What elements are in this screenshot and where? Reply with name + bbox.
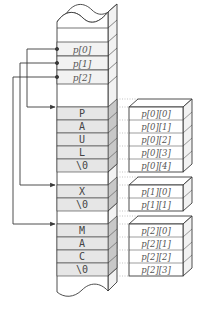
pointer-cell-label: p[1] (73, 59, 92, 69)
char-cell: P (79, 108, 85, 119)
char-cell: A (79, 121, 85, 132)
pointer-arrows (13, 47, 59, 224)
element-label: p[1][0] (141, 187, 171, 197)
string-block-2: M A C \0 (57, 216, 117, 276)
char-cell: U (79, 134, 85, 145)
char-cell: L (79, 147, 85, 158)
char-cell: \0 (76, 199, 88, 210)
arrow-p0-to-string0 (27, 49, 57, 107)
char-cell: \0 (76, 160, 88, 171)
element-label: p[2][2] (141, 252, 171, 262)
element-label: p[0][0] (141, 109, 171, 119)
arrow-p1-to-string1 (20, 63, 57, 185)
char-cell: C (79, 251, 85, 262)
element-label: p[0][1] (141, 122, 171, 132)
element-box-2: p[2][0] p[2][1] p[2][2] p[2][3] (129, 216, 192, 276)
char-cell: A (79, 238, 85, 249)
element-box-1: p[1][0] p[1][1] (129, 177, 192, 211)
string-block-0: P A U L \0 (57, 99, 117, 172)
memory-column: p[0] p[1] p[2] P A U L \0 (57, 4, 117, 296)
element-label: p[0][3] (141, 148, 171, 158)
element-label: p[2][0] (141, 226, 171, 236)
element-label: p[0][4] (141, 161, 171, 171)
pointer-cell-label: p[2] (73, 73, 92, 83)
pointer-cell-label: p[0] (73, 45, 92, 55)
char-cell: X (79, 186, 85, 197)
element-label: p[1][1] (141, 200, 171, 210)
char-cell: \0 (76, 264, 88, 275)
char-cell: M (79, 225, 85, 236)
element-box-0: p[0][0] p[0][1] p[0][2] p[0][3] p[0][4] (129, 99, 192, 172)
element-label: p[0][2] (141, 135, 171, 145)
memory-diagram: p[0] p[1] p[2] P A U L \0 (0, 0, 202, 313)
element-label: p[2][3] (141, 265, 171, 275)
element-label: p[2][1] (141, 239, 171, 249)
